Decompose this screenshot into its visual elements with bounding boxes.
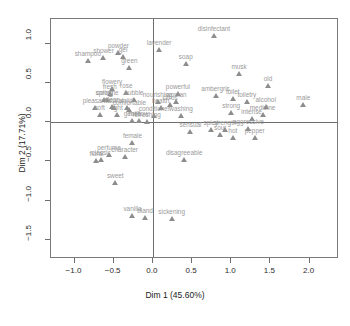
point-label: toiletry: [237, 92, 256, 98]
x-tick-label: 1.5: [264, 266, 275, 275]
x-tick: [230, 258, 231, 263]
point-label: health: [152, 98, 169, 104]
point-label: old: [264, 76, 273, 82]
point-label: green: [121, 58, 137, 64]
triangle-marker-icon: [122, 154, 128, 159]
x-tick: [309, 258, 310, 263]
triangle-marker-icon: [187, 129, 193, 134]
point-label: aggressive: [233, 119, 264, 125]
triangle-marker-icon: [112, 180, 118, 185]
triangle-marker-icon: [169, 216, 175, 221]
triangle-marker-icon: [183, 61, 189, 66]
x-tick: [113, 258, 114, 263]
triangle-marker-icon: [236, 71, 242, 76]
triangle-marker-icon: [85, 58, 91, 63]
point-label: sour: [214, 125, 226, 131]
x-tick-label: 0.5: [185, 266, 196, 275]
point-label: bubble: [124, 90, 143, 96]
point-label: shampoo: [75, 51, 101, 57]
y-tick-label: −1.5: [24, 225, 33, 253]
triangle-marker-icon: [300, 102, 306, 107]
point-label: floral: [90, 151, 104, 157]
triangle-marker-icon: [211, 33, 217, 38]
triangle-marker-icon: [156, 47, 162, 52]
point-label: sickening: [158, 209, 185, 215]
triangle-marker-icon: [208, 127, 214, 132]
point-label: bland: [137, 208, 153, 214]
point-label: powerful: [166, 84, 190, 90]
x-tick-label: 0.0: [146, 266, 157, 275]
y-tick: [45, 82, 50, 83]
plot-frame: lavenderpowdershowergelshampoosoapgreend…: [50, 18, 338, 258]
y-tick: [45, 200, 50, 201]
triangle-marker-icon: [252, 135, 258, 140]
point-label: disinfectant: [198, 26, 230, 32]
triangle-marker-icon: [178, 113, 184, 118]
x-axis-label: Dim 1 (45.60%): [0, 290, 350, 300]
point-label: sensual: [179, 122, 201, 128]
point-label: light: [111, 105, 123, 111]
y-tick: [45, 43, 50, 44]
point-label: sweet: [107, 173, 124, 179]
x-tick: [191, 258, 192, 263]
point-label: disagreeable: [166, 150, 203, 156]
y-tick: [45, 239, 50, 240]
point-label: male: [296, 95, 310, 101]
y-tick-label: 1.0: [24, 29, 33, 57]
triangle-marker-icon: [230, 96, 236, 101]
triangle-marker-icon: [142, 215, 148, 220]
x-tick: [152, 258, 153, 263]
y-axis-label: Dim 2 (17.71%): [17, 63, 27, 223]
point-label: hot: [228, 128, 237, 134]
triangle-marker-icon: [260, 112, 266, 117]
x-tick-label: 2.0: [303, 266, 314, 275]
triangle-marker-icon: [144, 119, 150, 124]
point-label: soft: [94, 105, 104, 111]
point-label: refreshing: [132, 112, 160, 118]
triangle-marker-icon: [228, 110, 234, 115]
point-label: gel: [119, 47, 128, 53]
triangle-marker-icon: [230, 135, 236, 140]
triangle-marker-icon: [217, 132, 223, 137]
point-label: character: [111, 147, 138, 153]
plot-area: lavenderpowdershowergelshampoosoapgreend…: [51, 19, 337, 257]
x-tick: [269, 258, 270, 263]
point-label: medicine: [250, 105, 276, 111]
triangle-marker-icon: [129, 213, 135, 218]
pca-biplot: lavenderpowdershowergelshampoosoapgreend…: [0, 0, 350, 326]
point-label: pepper: [245, 128, 265, 134]
point-label: musk: [231, 64, 246, 70]
triangle-marker-icon: [181, 157, 187, 162]
point-label: soap: [179, 54, 193, 60]
triangle-marker-icon: [97, 112, 103, 117]
x-tick-label: −1.0: [66, 266, 82, 275]
point-label: washing: [169, 106, 192, 112]
x-tick-label: 1.0: [225, 266, 236, 275]
triangle-marker-icon: [126, 65, 132, 70]
vertical-zero-axis: [153, 19, 154, 257]
triangle-marker-icon: [93, 158, 99, 163]
triangle-marker-icon: [213, 93, 219, 98]
point-label: lavender: [147, 40, 172, 46]
triangle-marker-icon: [265, 83, 271, 88]
y-tick: [45, 160, 50, 161]
point-label: alcohol: [256, 97, 276, 103]
y-tick: [45, 121, 50, 122]
point-label: strong: [222, 103, 240, 109]
x-tick-label: −0.5: [105, 266, 121, 275]
triangle-marker-icon: [100, 55, 106, 60]
point-label: female: [123, 133, 142, 139]
triangle-marker-icon: [129, 140, 135, 145]
x-tick: [74, 258, 75, 263]
triangle-marker-icon: [114, 112, 120, 117]
